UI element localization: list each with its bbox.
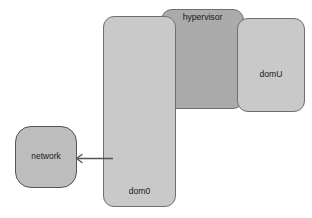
netdriver-to-network-connector — [72, 150, 114, 166]
domu-container[interactable] — [237, 18, 305, 112]
dom0-label: dom0 — [103, 186, 176, 196]
diagram-canvas: netback bridge net stack net driver shar… — [0, 0, 312, 218]
dom0-container[interactable] — [103, 16, 176, 207]
network-node[interactable]: network — [15, 126, 77, 188]
domu-label: domU — [237, 69, 305, 79]
hypervisor-label: hypervisor — [161, 12, 244, 22]
